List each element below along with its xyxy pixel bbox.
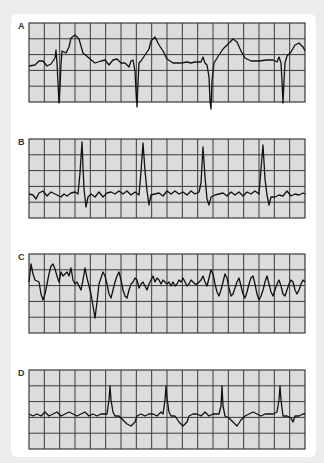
ecg-grid — [29, 23, 305, 102]
ecg-strip-d — [29, 370, 305, 449]
ecg-grid — [29, 139, 305, 218]
strip-label-a: A — [18, 21, 25, 31]
strip-label-d: D — [18, 368, 25, 378]
ecg-strip-b — [29, 139, 305, 218]
ecg-grid — [29, 254, 305, 333]
ecg-grid — [29, 370, 305, 449]
strip-label-b: B — [18, 137, 25, 147]
ecg-strip-c — [29, 254, 305, 333]
strip-label-c: C — [18, 252, 25, 262]
ecg-strip-a — [29, 23, 305, 102]
